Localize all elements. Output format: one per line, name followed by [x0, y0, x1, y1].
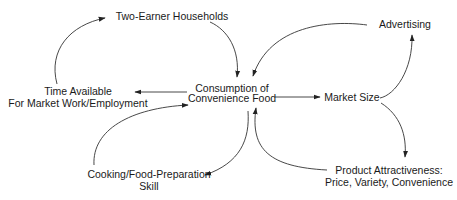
edge-consumption-to-cooking-skill: [205, 111, 248, 175]
node-time-available-line1: Time Available: [44, 85, 112, 97]
edge-market-size-to-product-attractiveness: [381, 103, 405, 157]
edge-market-size-to-advertising: [380, 35, 412, 98]
node-cooking-skill-line2: Skill: [139, 180, 158, 192]
edge-cooking-skill-to-consumption: [94, 105, 188, 165]
causal-loop-diagram: Two-Earner Households Advertising Consum…: [0, 0, 457, 200]
node-cooking-skill-line1: Cooking/Food-Preparation: [87, 168, 210, 180]
node-time-available-line2: For Market Work/Employment: [8, 97, 147, 109]
edge-two-earner-to-consumption: [210, 22, 237, 77]
node-market-size: Market Size: [324, 91, 380, 103]
edge-time-to-two-earner: [55, 18, 105, 84]
node-advertising: Advertising: [379, 18, 431, 30]
node-product-attractiveness-line1: Product Attractiveness:: [335, 164, 442, 176]
node-two-earner-households: Two-Earner Households: [116, 10, 229, 22]
node-consumption-line2: Convenience Food: [188, 92, 276, 104]
edge-product-attractiveness-to-consumption: [255, 108, 327, 170]
edge-advertising-to-consumption: [253, 23, 367, 76]
node-product-attractiveness-line2: Price, Variety, Convenience: [325, 176, 453, 188]
